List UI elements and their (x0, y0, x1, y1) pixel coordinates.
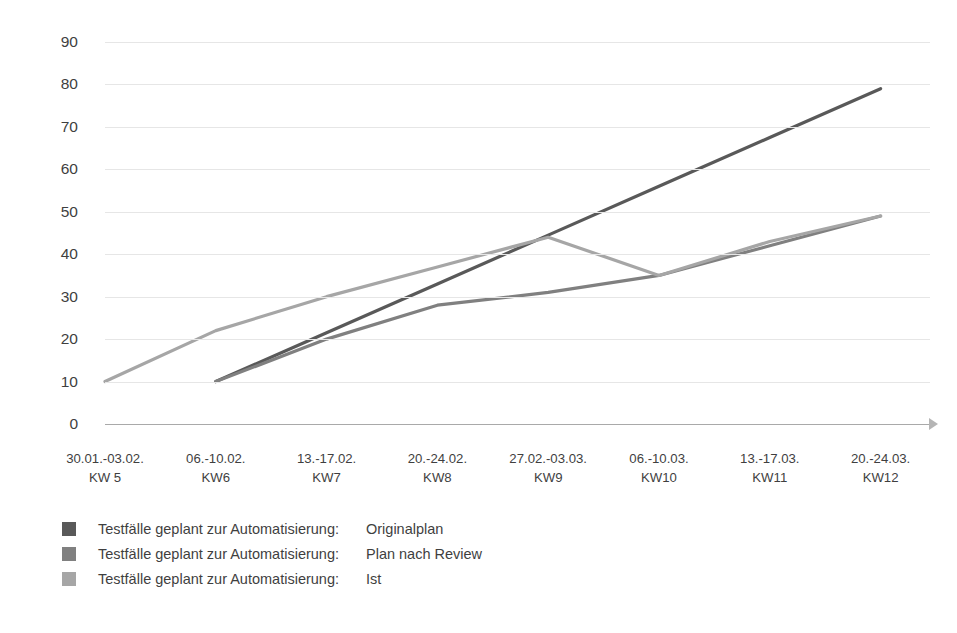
y-axis-tick-label: 0 (0, 416, 78, 432)
x-axis-week-label: KW10 (599, 468, 719, 487)
legend-series-name: Testfälle geplant zur Automatisierung: (98, 571, 366, 587)
x-axis-week-label: KW11 (710, 468, 830, 487)
gridline (105, 382, 930, 383)
legend: Testfälle geplant zur Automatisierung:Or… (62, 516, 662, 591)
gridline (105, 254, 930, 255)
gridline (105, 42, 930, 43)
y-axis-tick-label: 40 (0, 246, 78, 262)
y-axis-tick-label: 30 (0, 289, 78, 305)
x-axis-tick-label: 27.02.-03.03.KW9 (488, 449, 608, 487)
gridline (105, 339, 930, 340)
x-axis-date-range: 06.-10.03. (599, 449, 719, 468)
gridline (105, 297, 930, 298)
gridline (105, 212, 930, 213)
x-axis-date-range: 27.02.-03.03. (488, 449, 608, 468)
x-axis-tick-label: 20.-24.03.KW12 (821, 449, 941, 487)
legend-series-name: Testfälle geplant zur Automatisierung: (98, 546, 366, 562)
plot-area (105, 42, 930, 424)
y-axis-tick-label: 90 (0, 34, 78, 50)
x-axis-date-range: 30.01.-03.02. (45, 449, 165, 468)
y-axis-tick-label: 20 (0, 331, 78, 347)
legend-series-variant: Plan nach Review (366, 546, 482, 562)
gridline (105, 127, 930, 128)
legend-item-label: Testfälle geplant zur Automatisierung:Or… (98, 521, 443, 537)
x-axis-tick-label: 13.-17.03.KW11 (710, 449, 830, 487)
x-axis-week-label: KW9 (488, 468, 608, 487)
x-axis-date-range: 13.-17.02. (267, 449, 387, 468)
x-axis-tick-label: 30.01.-03.02.KW 5 (45, 449, 165, 487)
line-chart: Testfälle geplant zur Automatisierung:Or… (0, 0, 957, 633)
x-axis-week-label: KW7 (267, 468, 387, 487)
y-axis-tick-label: 70 (0, 119, 78, 135)
series-lines (105, 42, 930, 424)
gridline (105, 169, 930, 170)
series-line (216, 89, 881, 382)
x-axis-week-label: KW12 (821, 468, 941, 487)
y-axis-tick-label: 60 (0, 161, 78, 177)
legend-item-label: Testfälle geplant zur Automatisierung:Pl… (98, 546, 482, 562)
x-axis-date-range: 06.-10.02. (156, 449, 276, 468)
legend-item-label: Testfälle geplant zur Automatisierung:Is… (98, 571, 381, 587)
legend-color-swatch (62, 547, 76, 561)
legend-item[interactable]: Testfälle geplant zur Automatisierung:Or… (62, 516, 662, 541)
x-axis-date-range: 20.-24.02. (377, 449, 497, 468)
x-axis-tick-label: 20.-24.02.KW8 (377, 449, 497, 487)
legend-color-swatch (62, 572, 76, 586)
x-axis-date-range: 13.-17.03. (710, 449, 830, 468)
x-axis-tick-label: 06.-10.03.KW10 (599, 449, 719, 487)
legend-item[interactable]: Testfälle geplant zur Automatisierung:Pl… (62, 541, 662, 566)
legend-series-name: Testfälle geplant zur Automatisierung: (98, 521, 366, 537)
y-axis-tick-label: 10 (0, 374, 78, 390)
x-axis-date-range: 20.-24.03. (821, 449, 941, 468)
x-axis-week-label: KW6 (156, 468, 276, 487)
legend-color-swatch (62, 522, 76, 536)
legend-item[interactable]: Testfälle geplant zur Automatisierung:Is… (62, 566, 662, 591)
legend-series-variant: Originalplan (366, 521, 443, 537)
legend-series-variant: Ist (366, 571, 381, 587)
x-axis-week-label: KW8 (377, 468, 497, 487)
x-axis-week-label: KW 5 (45, 468, 165, 487)
y-axis-tick-label: 50 (0, 204, 78, 220)
axis-baseline (105, 424, 930, 425)
gridline (105, 84, 930, 85)
y-axis-tick-label: 80 (0, 76, 78, 92)
x-axis-tick-label: 06.-10.02.KW6 (156, 449, 276, 487)
arrow-right-icon (929, 418, 938, 430)
x-axis-tick-label: 13.-17.02.KW7 (267, 449, 387, 487)
